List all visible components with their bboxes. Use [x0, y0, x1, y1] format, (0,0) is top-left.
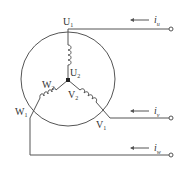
neutral-node — [66, 78, 70, 82]
arrow-iw-icon — [130, 146, 149, 150]
arrow-iu-icon — [130, 18, 149, 22]
label-iw: iw — [154, 142, 161, 155]
label-u1: U1 — [63, 16, 73, 28]
arrow-iv-icon — [130, 109, 149, 113]
terminal-v — [169, 116, 173, 120]
label-v1: V1 — [96, 119, 106, 131]
label-iv: iv — [154, 105, 160, 118]
label-v2: V2 — [68, 89, 78, 101]
terminal-u — [169, 27, 173, 31]
terminal-w — [169, 153, 173, 157]
star-connection-diagram: iu iv iw U1 U2 W2 V2 W1 V1 — [0, 0, 187, 170]
label-w2: W2 — [42, 79, 54, 91]
label-u2: U2 — [70, 67, 80, 79]
label-iu: iu — [154, 14, 160, 27]
label-w1: W1 — [15, 106, 27, 118]
